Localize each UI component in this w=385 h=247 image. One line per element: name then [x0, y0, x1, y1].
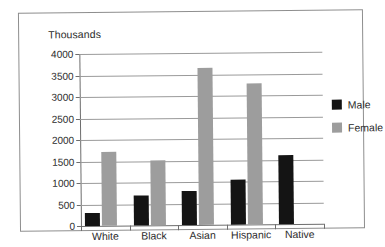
bar-black-male — [133, 195, 148, 225]
bar-groups — [79, 52, 322, 54]
bar-hispanic-male — [230, 179, 245, 224]
bar-group — [274, 52, 324, 224]
y-axis-tick-label: 2000 — [52, 135, 74, 146]
y-axis-unit-label: Thousands — [48, 28, 101, 41]
legend-swatch-male-icon — [332, 100, 342, 110]
y-axis-tick-label: 3000 — [51, 92, 73, 103]
legend-label: Female — [348, 121, 383, 133]
x-axis-tick-mark — [81, 226, 82, 231]
y-axis-tick-label: 1000 — [52, 178, 74, 189]
x-axis-label-black: Black — [141, 229, 167, 241]
x-axis-tick-mark — [324, 224, 325, 229]
legend-item-female: Female — [332, 121, 383, 133]
y-axis-tick-label: 4000 — [51, 49, 73, 60]
bar-black-female — [150, 160, 166, 226]
bar-group — [225, 52, 275, 224]
y-axis-tick-label: 3500 — [51, 70, 73, 81]
y-axis-tick-label: 500 — [58, 199, 75, 210]
y-axis-tick-label: 0 — [69, 221, 75, 232]
y-axis-tick-label: 2500 — [52, 113, 74, 124]
bar-white-male — [85, 213, 100, 226]
legend-item-male: Male — [332, 98, 383, 110]
x-axis-label-hispanic: Hispanic — [231, 228, 271, 240]
bar-group — [128, 53, 178, 225]
chart-frame: Thousands 400035003000250020001500100050… — [18, 9, 365, 231]
bar-group — [79, 54, 129, 226]
x-axis-tick-mark — [275, 224, 276, 229]
legend-swatch-female-icon — [332, 123, 342, 133]
bar-hispanic-female — [246, 83, 262, 224]
x-axis-tick-mark — [227, 225, 228, 230]
x-axis-label-asian: Asian — [189, 229, 215, 241]
plot-area: 40003500300025002000150010005000 WhiteBl… — [79, 52, 324, 226]
bar-asian-male — [182, 191, 197, 226]
scanned-chart-page: Thousands 400035003000250020001500100050… — [0, 0, 385, 247]
x-axis-tick-mark — [178, 225, 179, 230]
bar-white-female — [101, 152, 117, 226]
x-axis-label-white: White — [92, 230, 119, 242]
x-axis-tick-mark — [130, 226, 131, 231]
bar-group — [177, 53, 227, 225]
x-axis-label-native: Native — [285, 228, 315, 240]
chart-legend: MaleFemale — [332, 98, 383, 144]
bar-asian-female — [198, 68, 215, 225]
bar-native-male — [279, 155, 295, 224]
y-axis-tick-label: 1500 — [52, 156, 74, 167]
legend-label: Male — [348, 98, 371, 110]
